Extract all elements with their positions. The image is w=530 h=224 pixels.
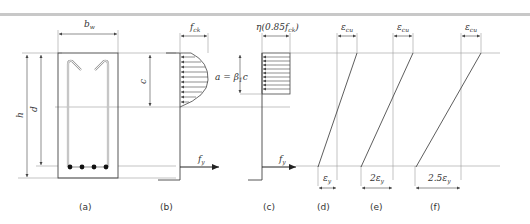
fck-label: fck <box>189 22 201 33</box>
label-f: (f) <box>430 202 440 212</box>
label-a: (a) <box>79 202 92 212</box>
ecu-label-e: εcu <box>397 22 409 33</box>
ecu-label-d: εcu <box>341 22 353 33</box>
2-5ey-label-f: 2.5εy <box>427 173 451 185</box>
d-label: d <box>29 106 39 112</box>
parabolic-stress-block <box>180 53 208 107</box>
ey-label-d: εy <box>323 173 332 185</box>
top-band <box>0 13 530 16</box>
strain-e: εcu 2εy (e) <box>361 22 413 212</box>
fy-label-c: fy <box>278 154 286 166</box>
bw-label: bw <box>84 19 96 30</box>
label-d: (d) <box>317 202 330 212</box>
section-c: η(0.85fck) a = β1c fy (c) <box>215 22 299 212</box>
strain-d: εcu εy (d) <box>317 22 357 212</box>
fy-label-b: fy <box>197 154 205 166</box>
beam-section-diagram: bw h d (a) fck c <box>0 0 530 224</box>
ecu-label-f: εcu <box>465 22 477 33</box>
strain-f: εcu 2.5εy (f) <box>415 22 481 212</box>
rectangular-stress-block <box>262 53 290 94</box>
2ey-label-e: 2εy <box>369 173 385 185</box>
a-beta-c-label: a = β1c <box>215 72 248 83</box>
section-b: fck c fy (b) <box>138 22 219 212</box>
section-a: bw h d (a) <box>15 19 118 212</box>
label-c: (c) <box>263 202 275 212</box>
c-label: c <box>138 79 148 84</box>
stirrup <box>68 61 108 167</box>
label-b: (b) <box>160 202 173 212</box>
eta-fck-label: η(0.85fck) <box>256 22 299 33</box>
h-label: h <box>15 112 25 118</box>
label-e: (e) <box>370 202 383 212</box>
guide-lines <box>18 30 500 178</box>
